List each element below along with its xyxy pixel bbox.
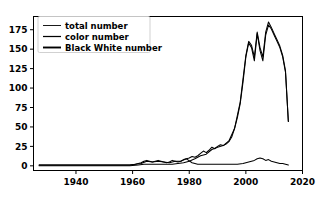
line-chart: 19401960198020002020 0255075100125150175…	[0, 0, 323, 204]
y-tick-label: 50	[15, 122, 28, 132]
y-tick-label: 150	[9, 44, 28, 54]
legend-label-0: total number	[65, 21, 128, 31]
y-tick-label: 100	[9, 83, 28, 93]
y-tick-label: 25	[15, 142, 28, 152]
x-tick-label: 1940	[63, 177, 88, 187]
x-tick-label: 2020	[290, 177, 315, 187]
chart-figure: 19401960198020002020 0255075100125150175…	[0, 0, 323, 204]
legend-label-1: color number	[65, 32, 130, 42]
x-tick-label: 1980	[177, 177, 202, 187]
x-tick-label: 1960	[120, 177, 145, 187]
y-tick-label: 0	[21, 161, 27, 171]
y-tick-label: 175	[9, 25, 28, 35]
x-tick-label: 2000	[233, 177, 258, 187]
y-tick-label: 75	[15, 103, 28, 113]
chart-legend: total numbercolor numberBlack White numb…	[38, 17, 163, 53]
legend-label-2: Black White number	[65, 43, 163, 53]
y-tick-label: 125	[9, 64, 28, 74]
